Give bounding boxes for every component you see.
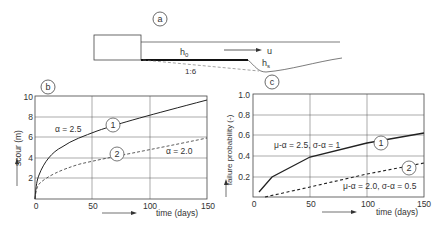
u-label: u [267,46,272,56]
panel-c-x-arrowhead [351,210,357,214]
h0-label: h0 [180,47,189,58]
svg-text:0.8: 0.8 [238,110,250,120]
panel-c-xlabel: time (days) [376,207,418,217]
flow-arrow-head [256,48,262,52]
panel-b-chart: b 10 8 6 4 2 0 50 100 150 scour (m) [13,80,215,218]
panel-b-marker-2-label: 2 [114,149,119,159]
svg-text:0.4: 0.4 [238,151,250,161]
svg-text:6: 6 [28,132,33,142]
slope-line [143,60,259,71]
panel-b-curve-2-label: α = 2.0 [166,146,193,156]
svg-text:150: 150 [201,201,215,211]
svg-text:4: 4 [28,153,33,163]
panel-c-yticks: 1.0 0.8 0.6 0.4 0.2 [238,90,250,182]
svg-text:8: 8 [28,112,33,122]
panel-c-chart: c 1.0 0.8 0.6 0.4 0.2 0 50 100 150 failu… [224,75,431,217]
panel-c-label: c [270,77,275,87]
svg-text:2: 2 [28,173,33,183]
panel-c-curve-1-label: μ-α = 2.5, σ-α = 1 [274,140,341,150]
svg-text:0: 0 [34,201,39,211]
panel-c-ylabel: failure probability (-) [225,114,234,185]
svg-text:0: 0 [252,199,257,209]
svg-text:150: 150 [417,199,431,209]
panel-c-marker-1-label: 1 [378,138,383,148]
svg-text:50: 50 [88,201,98,211]
svg-text:50: 50 [306,199,316,209]
panel-b-marker-1-label: 1 [110,120,115,130]
panel-a-label: a [157,14,162,24]
panel-b-x-arrowhead [131,211,137,215]
svg-text:0.2: 0.2 [238,172,250,182]
panel-b-label: b [45,82,50,92]
panel-c-curve-2-label: μ-α = 2.0, σ-α = 0.5 [343,181,417,191]
slope-label: 1:6 [185,67,197,76]
panel-b-ylabel: scour (m) [13,130,23,166]
panel-b-xlabel: time (days) [156,208,198,218]
panel-b-curve-1-label: α = 2.5 [55,124,82,134]
hs-label: hs [262,58,270,69]
panel-a-diagram: a h0 hs u 1:6 [94,12,342,76]
panel-b-yticks: 10 8 6 4 2 [24,92,34,183]
structure-block [94,35,141,60]
svg-text:0.6: 0.6 [238,130,250,140]
svg-text:100: 100 [361,199,375,209]
svg-text:10: 10 [24,92,34,102]
svg-text:1.0: 1.0 [238,90,250,100]
panel-c-marker-2-label: 2 [406,163,411,173]
